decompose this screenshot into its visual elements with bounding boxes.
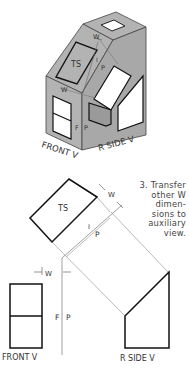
note-line-6: view. [128, 229, 186, 239]
iso-w-top: W [93, 33, 100, 41]
ortho-ts: TS [57, 204, 68, 213]
ortho-p-lower: P [66, 313, 71, 322]
proj-line-2 [66, 218, 110, 257]
w-aux-tick-2 [117, 202, 123, 208]
ts-auxiliary-view [30, 179, 97, 242]
ortho-p-upper: P [95, 230, 100, 239]
iso-f: F [75, 124, 79, 132]
w-aux-tick-1 [99, 184, 105, 190]
iso-i: I [96, 56, 98, 63]
front-view [10, 284, 42, 348]
ortho-r-side-v: R SIDE V [120, 354, 155, 363]
ortho-front-v: FRONT V [2, 353, 38, 362]
proj-line-4 [97, 197, 110, 212]
instruction-note: 3. Transfer other W dimen- sions to auxi… [128, 181, 186, 239]
fold-line-ip [62, 205, 122, 258]
ortho-w-aux: W [108, 191, 115, 199]
ortho-f: F [55, 313, 59, 322]
isometric-pictorial: TS W I P W F P FRONT V R SIDE V [0, 0, 189, 180]
ortho-w-front: W [45, 270, 52, 278]
iso-ts-label: TS [70, 60, 81, 69]
ortho-i: I [88, 223, 90, 231]
proj-line-1 [52, 242, 125, 316]
iso-p-lower: P [84, 124, 88, 132]
iso-p-upper: P [101, 64, 105, 72]
right-side-view [125, 272, 169, 348]
iso-w-mid: W [61, 86, 68, 94]
